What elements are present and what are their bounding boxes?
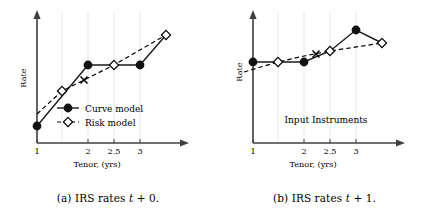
caption-b: (b) IRS rates t + 1. bbox=[216, 192, 433, 204]
xtick-label-2: 2 bbox=[301, 146, 306, 156]
caption-b-math-tail: + 1. bbox=[353, 192, 376, 204]
legend-label-curve-model: Curve model bbox=[85, 104, 143, 114]
xtick-label-4: 3 bbox=[137, 146, 142, 156]
curve-markers-b bbox=[249, 26, 361, 67]
figure-row: 1 2 2.5 3 Tenor, (yrs) Rate bbox=[0, 0, 433, 208]
plot-a: 1 2 2.5 3 Tenor, (yrs) Rate bbox=[0, 0, 216, 175]
caption-b-prefix: (b) bbox=[273, 192, 288, 204]
caption-a-math: t bbox=[129, 192, 133, 204]
xtick-label-4: 3 bbox=[353, 146, 358, 156]
chart-a-svg: 1 2 2.5 3 Tenor, (yrs) Rate bbox=[0, 0, 216, 175]
caption-b-math: t bbox=[346, 192, 350, 204]
legend-label-risk-model: Risk model bbox=[85, 118, 136, 128]
subfigure-a: 1 2 2.5 3 Tenor, (yrs) Rate bbox=[0, 0, 216, 208]
plot-b: 1 2 2.5 3 Tenor, (yrs) Rate bbox=[216, 0, 433, 175]
y-axis-title-b: Rate bbox=[234, 62, 244, 82]
y-axis-title-a: Rate bbox=[18, 68, 28, 88]
subfigure-b: 1 2 2.5 3 Tenor, (yrs) Rate bbox=[216, 0, 433, 208]
x-axis-title-a: Tenor, (yrs) bbox=[73, 159, 120, 169]
caption-a: (a) IRS rates t + 0. bbox=[0, 192, 216, 204]
caption-b-text: IRS rates bbox=[292, 192, 343, 204]
caption-a-math-tail: + 0. bbox=[137, 192, 160, 204]
x-axis-title-b: Tenor, (yrs) bbox=[289, 159, 336, 169]
xtick-label-2: 2 bbox=[85, 146, 90, 156]
cross-marker-a bbox=[81, 77, 88, 84]
caption-a-prefix: (a) bbox=[57, 192, 72, 204]
xtick-label-3: 2.5 bbox=[323, 146, 336, 156]
y-axis-b bbox=[249, 10, 256, 143]
xtick-label-1: 1 bbox=[34, 146, 39, 156]
caption-a-text: IRS rates bbox=[75, 192, 126, 204]
xtick-label-1: 1 bbox=[250, 146, 255, 156]
annotation-input-instruments: Input Instruments bbox=[285, 115, 368, 125]
legend-a: Curve model Risk model bbox=[57, 104, 143, 128]
xtick-label-3: 2.5 bbox=[107, 146, 120, 156]
chart-b-svg: 1 2 2.5 3 Tenor, (yrs) Rate bbox=[216, 0, 433, 175]
